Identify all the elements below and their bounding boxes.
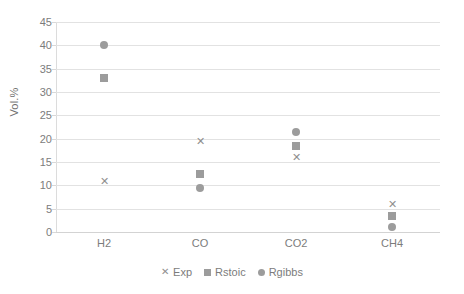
data-point-exp-ch4: ✕ <box>386 198 398 210</box>
legend-label: Exp <box>173 266 192 278</box>
y-axis-tickmark <box>52 209 56 210</box>
gridline <box>56 209 440 210</box>
x-axis-category-labels: H2COCO2CH4 <box>56 236 440 254</box>
data-point-rgibbs-co <box>196 184 204 192</box>
x-axis-line <box>56 232 440 233</box>
y-axis-tickmark <box>52 185 56 186</box>
y-axis-tickmark <box>52 69 56 70</box>
gridline <box>56 22 440 23</box>
data-point-exp-h2: ✕ <box>98 175 110 187</box>
data-point-rstoic-ch4 <box>388 212 396 220</box>
cross-marker-icon: ✕ <box>161 267 169 277</box>
chart-legend: ✕ExpRstoicRgibbs <box>0 266 464 278</box>
data-point-exp-co: ✕ <box>194 135 206 147</box>
y-axis-tick-labels: 454035302520151050 <box>18 0 52 232</box>
y-axis-tickmark <box>52 45 56 46</box>
y-axis-tick-label: 30 <box>40 87 52 98</box>
data-point-rstoic-co2 <box>292 142 300 150</box>
square-marker-icon <box>204 269 211 276</box>
gridline <box>56 162 440 163</box>
y-axis-tick-label: 45 <box>40 17 52 28</box>
gridline <box>56 92 440 93</box>
x-axis-category-label: H2 <box>97 236 111 250</box>
legend-label: Rstoic <box>215 266 246 278</box>
gridline <box>56 45 440 46</box>
y-axis-tickmark <box>52 115 56 116</box>
legend-label: Rgibbs <box>269 266 303 278</box>
y-axis-spine <box>56 22 57 232</box>
data-point-rstoic-h2 <box>100 74 108 82</box>
y-axis-tick-label: 25 <box>40 110 52 121</box>
circle-marker-icon <box>258 269 265 276</box>
data-point-rgibbs-co2 <box>292 128 300 136</box>
y-axis-tick-label: 20 <box>40 133 52 144</box>
data-point-exp-co2: ✕ <box>290 151 302 163</box>
gridline <box>56 139 440 140</box>
y-axis-tick-label: 15 <box>40 157 52 168</box>
gridline <box>56 115 440 116</box>
plot-area: ✕✕✕✕ <box>56 22 440 232</box>
legend-item-exp[interactable]: ✕Exp <box>161 266 192 278</box>
data-point-rgibbs-h2 <box>100 41 108 49</box>
y-axis-tick-label: 10 <box>40 180 52 191</box>
x-axis-category-label: CO <box>192 236 209 250</box>
legend-item-rstoic[interactable]: Rstoic <box>204 266 246 278</box>
y-axis-tickmark <box>52 92 56 93</box>
gridline <box>56 69 440 70</box>
y-axis-tick-label: 35 <box>40 63 52 74</box>
y-axis-tick-label: 40 <box>40 40 52 51</box>
data-point-rgibbs-ch4 <box>388 223 396 231</box>
scatter-chart: Vol.% 454035302520151050 ✕✕✕✕ H2COCO2CH4… <box>0 0 464 294</box>
y-axis-tickmark <box>52 139 56 140</box>
legend-item-rgibbs[interactable]: Rgibbs <box>258 266 303 278</box>
gridline <box>56 185 440 186</box>
data-point-rstoic-co <box>196 170 204 178</box>
x-axis-category-label: CH4 <box>381 236 403 250</box>
x-axis-category-label: CO2 <box>285 236 308 250</box>
y-axis-tickmark <box>52 232 56 233</box>
y-axis-tickmark <box>52 162 56 163</box>
y-axis-tickmark <box>52 22 56 23</box>
